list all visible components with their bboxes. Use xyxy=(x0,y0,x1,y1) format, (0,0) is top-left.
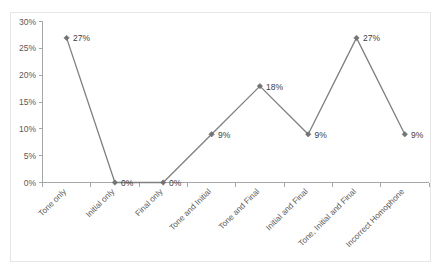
series-line xyxy=(67,38,405,183)
data-label-2: 0% xyxy=(169,178,182,188)
data-label-3: 9% xyxy=(218,130,231,140)
y-tick-4: 20% xyxy=(19,70,43,80)
data-label-1: 0% xyxy=(121,178,134,188)
y-axis-ticks: 0% 5% 10% 15% 20% 25% 30% xyxy=(19,17,43,188)
x-axis-label-3: Tone and Initial xyxy=(168,187,213,232)
y-tick-5: 25% xyxy=(19,43,43,53)
x-axis-labels: Tone only Initial only Final only Tone a… xyxy=(37,186,407,249)
y-tick-2: 10% xyxy=(19,124,43,134)
y-tick-3: 15% xyxy=(19,97,43,107)
y-tick-0: 0% xyxy=(24,178,43,188)
data-point-7[interactable] xyxy=(402,132,407,137)
x-axis-label-2: Final only xyxy=(133,186,165,218)
y-tick-label-2: 10% xyxy=(19,124,36,134)
data-label-6: 27% xyxy=(363,33,380,43)
x-axis-label-1: Initial only xyxy=(84,186,117,219)
data-labels: 27% 0% 0% 9% 18% 9% 27% 9% xyxy=(73,33,424,188)
y-tick-label-6: 30% xyxy=(19,17,36,27)
y-tick-1: 5% xyxy=(24,151,43,161)
y-tick-label-0: 0% xyxy=(24,178,37,188)
data-point-6[interactable] xyxy=(354,35,359,40)
y-tick-label-1: 5% xyxy=(24,151,37,161)
data-point-1[interactable] xyxy=(112,180,117,185)
data-label-7: 9% xyxy=(411,130,424,140)
data-label-5: 9% xyxy=(315,130,328,140)
x-axis-label-5: Initial and Final xyxy=(264,187,309,232)
data-label-0: 27% xyxy=(73,33,90,43)
x-axis-label-0: Tone only xyxy=(37,186,69,218)
y-tick-label-3: 15% xyxy=(19,97,36,107)
x-axis-label-4: Tone and Final xyxy=(217,187,261,231)
y-tick-label-5: 25% xyxy=(19,43,36,53)
x-axis-ticks xyxy=(43,183,430,188)
data-label-4: 18% xyxy=(266,82,283,92)
data-point-0[interactable] xyxy=(64,35,69,40)
y-tick-label-4: 20% xyxy=(19,70,36,80)
line-chart: 0% 5% 10% 15% 20% 25% 30% xyxy=(0,0,445,278)
y-tick-6: 30% xyxy=(19,17,43,27)
